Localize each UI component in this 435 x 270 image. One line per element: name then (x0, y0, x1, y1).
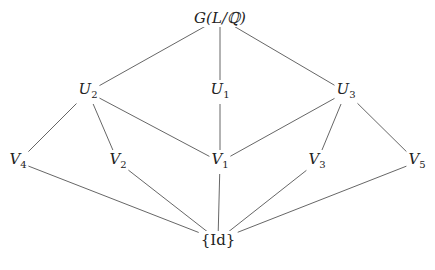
node-v3: V3 (306, 150, 327, 174)
node-u3: U3 (334, 80, 357, 104)
edge-G-U3 (220, 18, 346, 92)
lattice-edges (0, 0, 435, 270)
node-label: U (336, 80, 349, 98)
node-subscript: 4 (20, 159, 26, 170)
node-v1: V1 (209, 150, 230, 174)
node-subscript: 2 (91, 89, 97, 100)
node-subscript: 2 (120, 159, 126, 170)
edge-G-U2 (88, 18, 220, 92)
node-v5: V5 (406, 150, 427, 174)
node-label: U (78, 80, 91, 98)
node-subscript: 3 (349, 89, 355, 100)
node-label: V (408, 150, 419, 168)
node-subscript: 1 (222, 159, 228, 170)
node-label: {Id} (201, 231, 236, 249)
node-label: G(L/ℚ) (194, 9, 246, 27)
node-u2: U2 (76, 80, 99, 104)
node-u1: U1 (208, 80, 231, 104)
node-label: V (308, 150, 319, 168)
edge-V2-Id (118, 162, 218, 240)
node-subscript: 3 (319, 159, 325, 170)
node-subscript: 1 (223, 89, 229, 100)
node-subscript: 5 (419, 159, 425, 170)
node-label: V (9, 150, 20, 168)
node-label: U (210, 80, 223, 98)
node-label: V (211, 150, 222, 168)
node-v2: V2 (107, 150, 128, 174)
node-v4: V4 (7, 150, 28, 174)
node-g: G(L/ℚ) (192, 9, 248, 27)
node-label: V (109, 150, 120, 168)
edge-V3-Id (218, 162, 317, 240)
node-id: {Id} (199, 231, 238, 249)
